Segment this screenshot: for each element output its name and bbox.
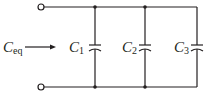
capacitor-c3 xyxy=(191,7,203,87)
arrow-head-icon xyxy=(50,45,56,50)
top-terminal xyxy=(38,4,44,10)
junction-dot xyxy=(93,5,97,9)
c3-label: C3 xyxy=(174,39,189,56)
junction-dot xyxy=(143,85,147,89)
junction-dot xyxy=(93,85,97,89)
c2-label: C2 xyxy=(122,39,137,56)
ceq-label: Ceq xyxy=(3,39,22,56)
capacitor-c1 xyxy=(89,7,101,87)
parallel-capacitor-diagram: Ceq C1 C2 C3 xyxy=(0,0,205,99)
bottom-terminal xyxy=(38,84,44,90)
junction-dot xyxy=(143,5,147,9)
c1-label: C1 xyxy=(69,39,84,56)
capacitor-c2 xyxy=(139,7,151,87)
